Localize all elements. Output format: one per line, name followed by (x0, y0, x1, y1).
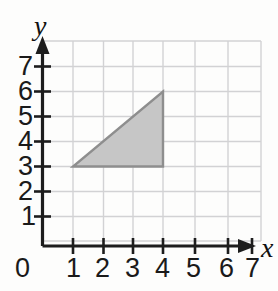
x-tick-label-1: 1 (66, 255, 81, 282)
x-tick-label-4: 4 (155, 255, 170, 282)
x-axis-label: x (261, 234, 273, 262)
x-tick-label-5: 5 (186, 255, 201, 282)
x-tick-label-2: 2 (95, 255, 110, 282)
shaded-right-triangle (73, 92, 163, 167)
origin-label: 0 (15, 255, 30, 282)
coordinate-plane-svg (0, 0, 278, 291)
x-tick-label-7: 7 (245, 255, 260, 282)
coordinate-plane-figure: y x 0 7 6 5 4 3 2 1 1 2 3 4 5 6 7 (0, 0, 278, 291)
y-tick-label-1: 1 (21, 203, 36, 230)
x-tick-label-6: 6 (219, 255, 234, 282)
y-axis-label: y (34, 12, 46, 40)
x-tick-label-3: 3 (125, 255, 140, 282)
